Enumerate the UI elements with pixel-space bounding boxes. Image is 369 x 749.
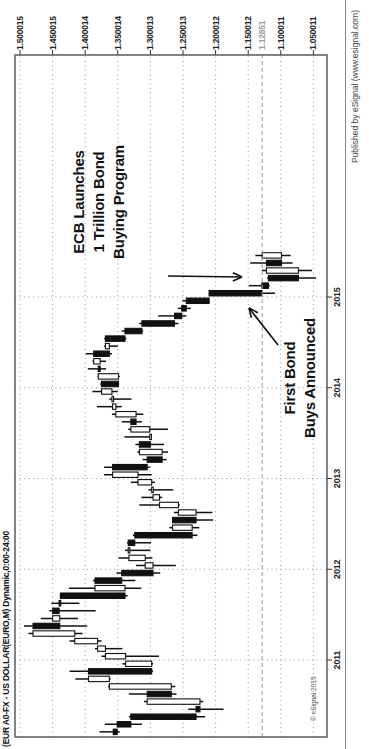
candle-2015-01 [209,291,275,296]
candle-body [94,351,110,356]
candle-body [135,533,192,538]
candle-body [94,359,101,364]
candle-2010-12 [122,661,153,666]
year-axis-label: 2014 [332,378,342,397]
candle-body [131,427,150,432]
candle-2010-04 [105,722,142,727]
candle-body [105,654,125,659]
candle-body [95,585,125,590]
candle-2010-11 [70,669,153,674]
candle-2012-09 [139,502,179,507]
candlestick-chart: 1.5000151.4500151.4000141.3500141.300013… [0,0,369,749]
candle-2010-03 [100,729,120,734]
price-axis-label: 1.150012 [243,16,253,50]
candle-body [75,638,98,643]
current-price-label: 1.12851 [257,20,267,50]
price-axis-label: 1.050011 [308,16,318,50]
candle-2014-06 [104,343,118,348]
candle-2012-01 [136,563,176,568]
candle-body [33,623,60,628]
first-bond-arrow [249,308,278,345]
candle-body [112,396,114,401]
candle-2013-04 [137,449,168,454]
candle-2014-09 [139,321,178,326]
candle-body [33,631,75,636]
candle-body [128,540,135,545]
candle-body [175,313,182,318]
price-axis-label: 1.450015 [48,16,58,50]
publisher-strip: Published by eSignal (www.esignal.com) [345,0,369,749]
candle-2015-03 [267,275,316,280]
candle-body [186,298,209,303]
candle-body [262,283,269,288]
candle-2012-08 [174,510,212,515]
candle-2014-10 [158,313,186,318]
candle-body [131,419,136,424]
candle-2012-05 [133,533,198,538]
candle-body [139,442,150,447]
candle-body [98,374,118,379]
candle-body [105,343,109,348]
candle-2011-04 [28,631,82,636]
candle-2014-12 [182,298,209,303]
candle-body [153,495,160,500]
candle-body [122,570,153,575]
candle-body [131,714,196,719]
year-axis-label: 2011 [332,650,342,669]
candle-2014-05 [86,351,112,356]
candle-body [173,517,196,522]
candle-2011-12 [117,570,161,575]
candle-2012-04 [127,540,151,545]
ecb-annotation-line: Buying Program [110,145,127,259]
candle-body [102,389,112,394]
candle-body [117,722,131,727]
candle-body [147,699,200,704]
candle-2013-06 [124,434,151,439]
candle-2010-06 [188,706,223,711]
candle-2013-11 [109,396,131,401]
candle-body [268,275,298,280]
candle-2013-08 [122,419,142,424]
year-axis-label: 2012 [332,559,342,578]
candle-body [160,502,179,507]
candle-2014-11 [178,306,191,311]
candle-2013-12 [92,389,117,394]
candle-2011-09 [60,593,128,598]
first-bond-annotation-line: First Bond [281,341,298,414]
candle-2010-09 [108,684,175,689]
candle-2013-10 [97,404,122,409]
candle-2013-03 [143,457,167,462]
candle-body [53,616,60,621]
candle-2014-03 [88,366,106,371]
candle-body [105,336,125,341]
candle-body [152,487,154,492]
price-axis-label: 1.400014 [80,16,90,50]
year-axis-label: 2015 [332,287,342,306]
candle-2011-10 [69,585,141,590]
candle-body [98,646,106,651]
candle-2011-06 [41,616,78,621]
ecb-arrow [168,276,242,277]
candle-body [142,321,175,326]
candle-2012-06 [169,525,199,530]
candle-body [266,260,281,265]
candle-body [113,404,116,409]
candle-body [178,510,196,515]
candle-2012-03 [125,548,150,553]
candle-body [138,480,152,485]
candle-body [209,291,262,296]
candle-body [139,449,162,454]
candle-2012-12 [131,480,155,485]
candle-body [60,593,125,598]
candle-2013-05 [135,442,164,447]
candle-2010-10 [75,676,110,681]
candle-2013-02 [104,464,150,469]
candle-2011-05 [24,623,87,628]
ecb-annotation-line: ECB Launches [70,150,87,253]
candle-2011-08 [51,601,79,606]
price-axis-label: 1.200012 [211,16,221,50]
candle-body [59,601,61,606]
candle-body [113,464,148,469]
candle-2010-07 [144,699,203,704]
ecb-annotation-line: 1 Trillion Bond [90,151,107,252]
